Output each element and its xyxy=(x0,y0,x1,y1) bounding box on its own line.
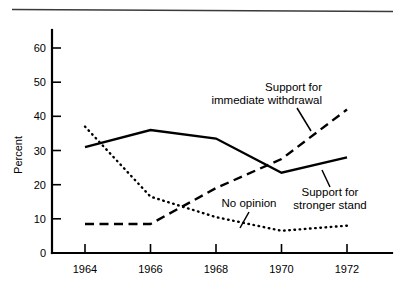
annotation-line-2: immediate withdrawal xyxy=(211,94,322,106)
x-tick-label: 1966 xyxy=(138,263,162,275)
y-axis-tick-labels: 60 50 40 30 20 10 0 xyxy=(34,42,46,259)
annotation-leader-line xyxy=(322,170,330,187)
annotation-support-immediate-withdrawal: Support for immediate withdrawal xyxy=(211,81,322,131)
y-tick-label: 60 xyxy=(34,42,46,54)
annotation-leader-line xyxy=(240,212,249,228)
x-tick-label: 1972 xyxy=(335,263,359,275)
annotation-support-stronger-stand: Support for stronger stand xyxy=(293,170,367,211)
chart-figure: 60 50 40 30 20 10 0 Percent 1964 1966 19… xyxy=(0,0,405,291)
annotation-line-1: No opinion xyxy=(222,197,277,209)
x-tick-label: 1970 xyxy=(269,263,293,275)
y-tick-label: 20 xyxy=(34,179,46,191)
chart-canvas: 60 50 40 30 20 10 0 Percent 1964 1966 19… xyxy=(0,0,405,291)
y-tick-label: 40 xyxy=(34,110,46,122)
annotation-line-1: Support for xyxy=(302,186,359,198)
x-tick-label: 1968 xyxy=(204,263,228,275)
y-tick-label: 50 xyxy=(34,76,46,88)
annotation-line-2: stronger stand xyxy=(293,199,367,211)
y-axis-title: Percent xyxy=(12,136,24,174)
y-tick-label: 30 xyxy=(34,145,46,157)
series-line-no-opinion xyxy=(85,127,347,231)
top-divider-rule xyxy=(12,10,393,12)
annotation-line-1: Support for xyxy=(265,81,322,93)
y-tick-label: 10 xyxy=(34,213,46,225)
y-axis-ticks xyxy=(52,48,61,253)
x-tick-label: 1964 xyxy=(73,263,97,275)
y-tick-label: 0 xyxy=(40,247,46,259)
annotation-leader-line xyxy=(297,108,311,131)
x-axis-ticks xyxy=(85,244,347,253)
x-axis-tick-labels: 1964 1966 1968 1970 1972 xyxy=(73,263,359,275)
series-line-support-stronger-stand xyxy=(85,130,347,173)
